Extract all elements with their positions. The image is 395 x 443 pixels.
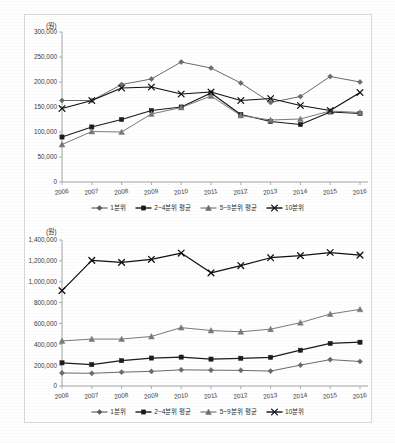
svg-text:2012: 2012 (233, 391, 248, 400)
svg-text:2011: 2011 (203, 187, 218, 196)
triangle-marker-icon (200, 204, 217, 212)
legend-item-4: 10분위 (266, 408, 305, 416)
svg-text:2010: 2010 (173, 391, 188, 400)
diamond-marker-icon (91, 204, 108, 212)
svg-text:2010: 2010 (173, 187, 188, 196)
legend-item-label: 10분위 (285, 408, 304, 416)
svg-text:2012: 2012 (233, 187, 248, 196)
triangle-marker-icon (200, 408, 217, 416)
svg-text:2006: 2006 (54, 391, 69, 400)
svg-text:150,000: 150,000 (34, 103, 58, 110)
legend-item-label: 5~9분위 평균 (220, 204, 257, 212)
chart-bottom-legend: 1분위2~4분위 평균5~9분위 평균10분위 (0, 408, 395, 416)
svg-text:2008: 2008 (114, 391, 129, 400)
svg-text:800,000: 800,000 (34, 299, 58, 306)
legend-item-1: 1분위 (91, 204, 126, 212)
legend-item-2: 2~4분위 평균 (135, 408, 191, 416)
chart-bottom-plot: 0200,000400,000600,000800,0001,000,0001,… (0, 226, 395, 412)
svg-text:2009: 2009 (144, 391, 159, 400)
cross-marker-icon (266, 204, 283, 212)
chart-top-legend: 1분위2~4분위 평균5~9분위 평균10분위 (0, 204, 395, 212)
svg-text:2007: 2007 (84, 187, 99, 196)
legend-item-label: 2~4분위 평균 (154, 408, 191, 416)
svg-text:2014: 2014 (293, 391, 308, 400)
svg-text:2009: 2009 (144, 187, 159, 196)
legend-item-label: 10분위 (285, 204, 304, 212)
svg-text:2013: 2013 (263, 187, 278, 196)
svg-text:0: 0 (53, 178, 57, 185)
svg-text:2013: 2013 (263, 391, 278, 400)
chart-top: (원) 050,000100,000150,000200,000250,0003… (0, 16, 395, 228)
svg-text:2007: 2007 (84, 391, 99, 400)
legend-item-1: 1분위 (91, 408, 126, 416)
chart-top-plot: 050,000100,000150,000200,000250,000300,0… (0, 16, 395, 206)
legend-item-label: 5~9분위 평균 (220, 408, 257, 416)
svg-text:50,000: 50,000 (37, 153, 57, 160)
diamond-marker-icon (91, 408, 108, 416)
legend-item-2: 2~4분위 평균 (135, 204, 191, 212)
svg-text:2016: 2016 (352, 187, 367, 196)
square-marker-icon (135, 408, 152, 416)
svg-text:1,200,000: 1,200,000 (29, 257, 58, 264)
chart-bottom: (원) 0200,000400,000600,000800,0001,000,0… (0, 226, 395, 436)
legend-item-label: 1분위 (110, 408, 126, 416)
svg-text:2011: 2011 (203, 391, 218, 400)
square-marker-icon (135, 204, 152, 212)
svg-text:2014: 2014 (293, 187, 308, 196)
svg-text:2006: 2006 (54, 187, 69, 196)
svg-text:1,400,000: 1,400,000 (29, 236, 58, 243)
svg-text:250,000: 250,000 (34, 53, 58, 60)
svg-text:2016: 2016 (352, 391, 367, 400)
svg-text:200,000: 200,000 (34, 362, 58, 369)
figure-page: (원) 050,000100,000150,000200,000250,0003… (0, 0, 395, 443)
svg-text:0: 0 (53, 382, 57, 389)
svg-text:300,000: 300,000 (34, 28, 58, 35)
svg-text:2015: 2015 (322, 187, 337, 196)
svg-text:100,000: 100,000 (34, 128, 58, 135)
legend-item-label: 1분위 (110, 204, 126, 212)
legend-item-4: 10분위 (266, 204, 305, 212)
cross-marker-icon (266, 408, 283, 416)
svg-text:1,000,000: 1,000,000 (29, 278, 58, 285)
legend-item-label: 2~4분위 평균 (154, 204, 191, 212)
svg-text:400,000: 400,000 (34, 341, 58, 348)
svg-text:2008: 2008 (114, 187, 129, 196)
svg-text:2015: 2015 (322, 391, 337, 400)
svg-text:600,000: 600,000 (34, 320, 58, 327)
legend-item-3: 5~9분위 평균 (200, 204, 256, 212)
legend-item-3: 5~9분위 평균 (200, 408, 256, 416)
svg-text:200,000: 200,000 (34, 78, 58, 85)
